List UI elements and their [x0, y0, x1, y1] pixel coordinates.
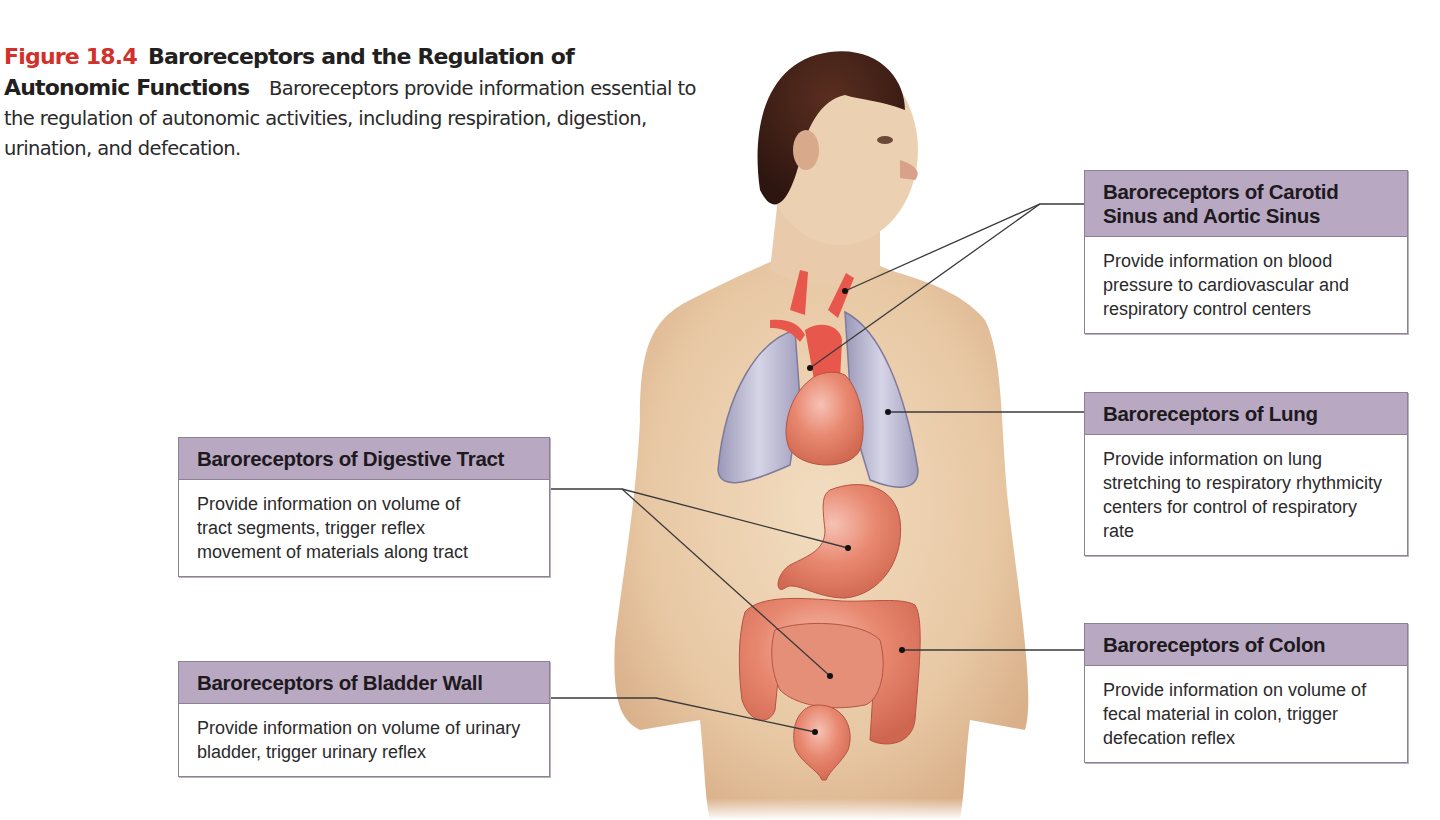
figure-caption: Figure 18.4 Baroreceptors and the Regula… — [4, 42, 704, 164]
callout-description: Provide information on volume of tract s… — [179, 480, 549, 576]
callout-description: Provide information on lung stretching t… — [1085, 435, 1407, 555]
callout-title: Baroreceptors of Bladder Wall — [179, 662, 549, 704]
callout-description: Provide information on blood pressure to… — [1085, 237, 1407, 333]
callout-title: Baroreceptors of Carotid Sinus and Aorti… — [1085, 171, 1407, 237]
callout-digestive-tract: Baroreceptors of Digestive Tract Provide… — [178, 437, 550, 577]
callout-description: Provide information on volume of fecal m… — [1085, 666, 1407, 762]
callout-lung: Baroreceptors of Lung Provide informatio… — [1084, 392, 1408, 556]
callout-bladder-wall: Baroreceptors of Bladder Wall Provide in… — [178, 661, 550, 777]
small-intestine — [772, 623, 883, 707]
callout-colon: Baroreceptors of Colon Provide informati… — [1084, 623, 1408, 763]
callout-title: Baroreceptors of Digestive Tract — [179, 438, 549, 480]
callout-description: Provide information on volume of urinary… — [179, 704, 549, 776]
callout-title: Baroreceptors of Lung — [1085, 393, 1407, 435]
figure-number: Figure 18.4 — [4, 44, 137, 69]
callout-title: Baroreceptors of Colon — [1085, 624, 1407, 666]
callout-carotid-aortic-sinus: Baroreceptors of Carotid Sinus and Aorti… — [1084, 170, 1408, 334]
